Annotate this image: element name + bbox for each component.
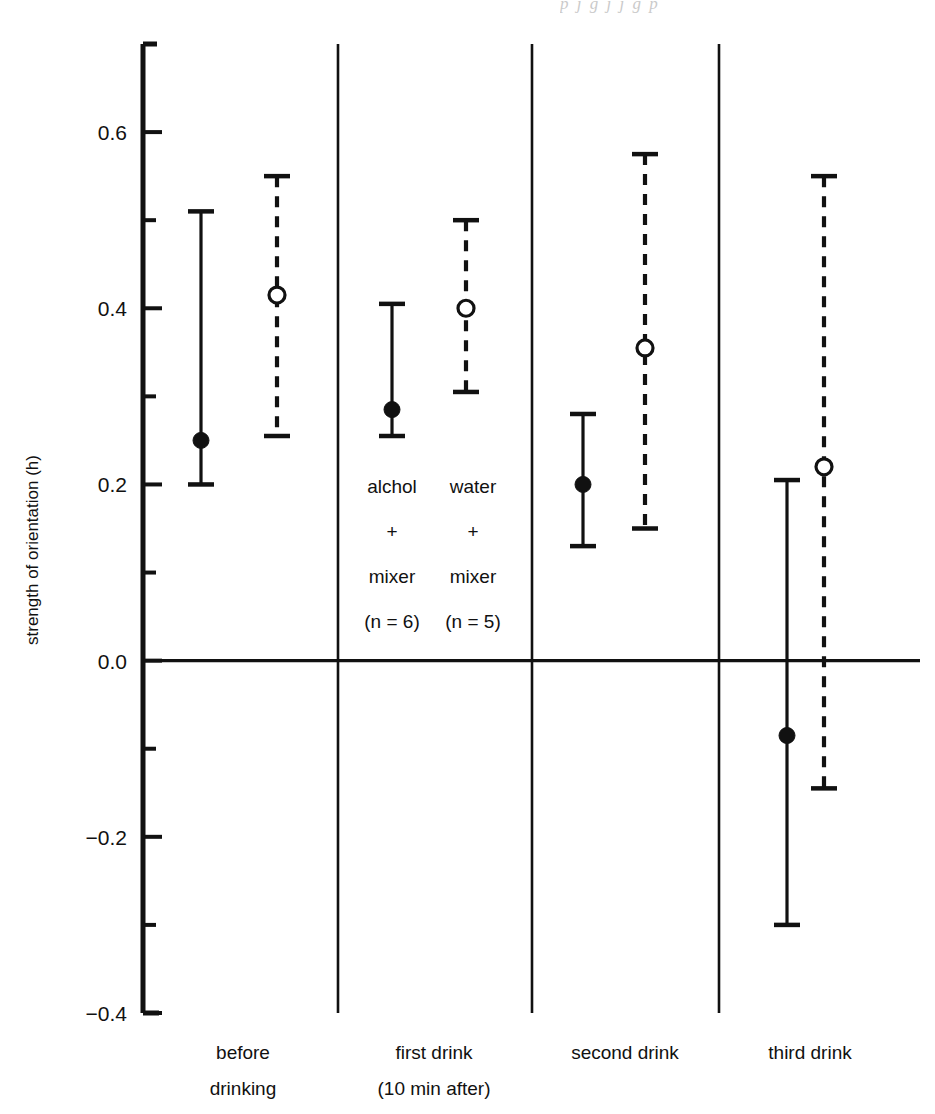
data-point-filled-circle[interactable] [575, 476, 591, 492]
y-axis-tick-label: 0.6 [98, 121, 127, 144]
y-axis-tick-label: −0.2 [86, 826, 127, 849]
x-axis-category-label: before [216, 1042, 270, 1063]
data-point-open-circle[interactable] [816, 459, 832, 475]
y-axis-tick-label: −0.4 [86, 1002, 128, 1025]
plot-annotation-line: + [386, 521, 397, 542]
y-axis-tick-label: 0.0 [98, 650, 127, 673]
plot-annotation-line: mixer [450, 566, 497, 587]
data-point-filled-circle[interactable] [384, 402, 400, 418]
x-axis-category-label: drinking [210, 1078, 277, 1099]
y-axis-tick-label: 0.2 [98, 473, 127, 496]
error-bar-chart: 0.60.40.20.0−0.2−0.4alchol+mixer(n = 6)w… [0, 0, 935, 1114]
data-point-filled-circle[interactable] [193, 432, 209, 448]
x-axis-category-label: first drink [395, 1042, 473, 1063]
plot-annotation-line: mixer [369, 566, 416, 587]
data-point-open-circle[interactable] [637, 340, 653, 356]
x-axis-category-label: second drink [571, 1042, 679, 1063]
x-axis-category-label: (10 min after) [378, 1078, 491, 1099]
plot-annotation-line: + [467, 521, 478, 542]
data-point-filled-circle[interactable] [779, 728, 795, 744]
data-point-open-circle[interactable] [269, 287, 285, 303]
x-axis-category-label: third drink [768, 1042, 852, 1063]
plot-annotation-line: (n = 6) [364, 611, 419, 632]
plot-annotation-line: (n = 5) [445, 611, 500, 632]
plot-annotation-line: alchol [367, 476, 417, 497]
plot-annotation-line: water [449, 476, 497, 497]
figure-page: p j g j j g p strength of orientation (h… [0, 0, 935, 1114]
data-point-open-circle[interactable] [458, 300, 474, 316]
y-axis-tick-label: 0.4 [98, 297, 128, 320]
